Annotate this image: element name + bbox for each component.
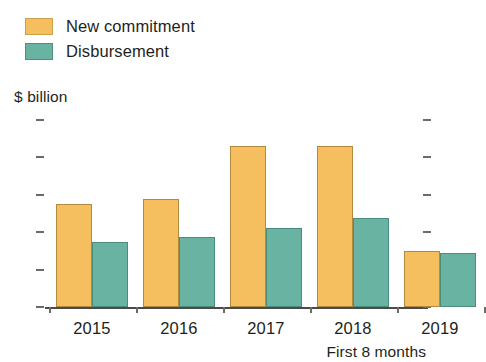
legend-item-new-commitment: New commitment — [25, 14, 195, 39]
x-tick-mark — [136, 307, 138, 313]
bar-2015-disbursement — [92, 242, 128, 307]
bar-2019-new-commitment — [404, 251, 440, 307]
bar-2018-disbursement — [353, 218, 389, 307]
y-tick-mark — [36, 231, 44, 233]
bar-2018-new-commitment — [317, 146, 353, 307]
x-axis-label-2016: 2016 — [133, 320, 225, 337]
y-tick-mark — [36, 269, 44, 271]
y-tick-mark — [36, 194, 44, 196]
chart-plot-area: 0816243240 — [45, 120, 420, 307]
x-axis-label-2015: 2015 — [46, 320, 138, 337]
chart-footnote: First 8 months — [326, 344, 426, 360]
legend-label-disbursement: Disbursement — [66, 43, 169, 60]
y-tick-mark-right — [423, 156, 431, 158]
legend-item-disbursement: Disbursement — [25, 39, 195, 64]
y-tick-mark-right — [423, 119, 431, 121]
chart-legend: New commitment Disbursement — [25, 14, 195, 64]
bar-2017-new-commitment — [230, 146, 266, 307]
x-axis-label-2019: 2019 — [394, 320, 486, 337]
y-tick-mark-right — [423, 194, 431, 196]
x-axis-label-2018: 2018 — [307, 320, 399, 337]
y-axis-title: $ billion — [14, 88, 67, 106]
x-tick-mark — [49, 307, 51, 313]
y-tick-mark — [36, 306, 44, 308]
x-tick-mark — [310, 307, 312, 313]
x-tick-mark — [223, 307, 225, 313]
bar-2017-disbursement — [266, 228, 302, 307]
x-axis-label-2017: 2017 — [220, 320, 312, 337]
x-tick-mark — [397, 307, 399, 313]
bar-2016-new-commitment — [143, 199, 179, 307]
bar-2019-disbursement — [440, 253, 476, 307]
legend-swatch-disbursement — [25, 43, 53, 60]
bar-2015-new-commitment — [56, 204, 92, 307]
x-axis-line — [45, 307, 428, 309]
legend-label-new-commitment: New commitment — [66, 18, 195, 35]
legend-swatch-new-commitment — [25, 18, 53, 35]
bar-2016-disbursement — [179, 237, 215, 307]
y-tick-mark-right — [423, 231, 431, 233]
y-tick-mark — [36, 156, 44, 158]
y-tick-mark — [36, 119, 44, 121]
